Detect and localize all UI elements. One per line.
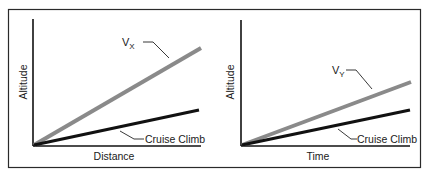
vy-leader-line <box>346 70 372 89</box>
right-y-axis-label: Altitude <box>224 64 236 99</box>
right-x-axis-label: Time <box>307 150 330 162</box>
left-x-axis-label: Distance <box>94 150 135 162</box>
right-panel: VY Cruise Climb Time Altitude <box>224 20 417 162</box>
left-cruise-climb-label: Cruise Climb <box>145 133 205 145</box>
vx-leader-line <box>143 42 169 58</box>
vx-label: VX <box>122 36 135 51</box>
vx-line <box>34 48 201 145</box>
left-panel: VX Cruise Climb Distance Altitude <box>17 19 205 162</box>
left-y-axis-label: Altitude <box>17 64 29 99</box>
climb-comparison-diagram: VX Cruise Climb Distance Altitude VY Cru… <box>0 0 431 179</box>
right-cruise-leader-line <box>338 129 357 139</box>
left-cruise-leader-line <box>120 131 144 139</box>
vy-label: VY <box>332 64 345 79</box>
right-cruise-climb-label: Cruise Climb <box>357 133 417 145</box>
